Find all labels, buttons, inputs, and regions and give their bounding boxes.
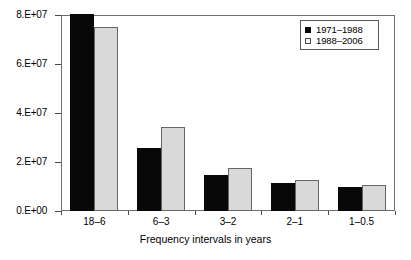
bar-10.5-series1	[338, 187, 362, 211]
legend-swatch-icon	[305, 27, 311, 33]
x-axis-tick-mark	[128, 211, 129, 215]
x-axis-tick-label: 2–1	[286, 216, 303, 227]
legend-entry: 1971–1988	[305, 24, 374, 35]
legend-entry: 1988–2006	[305, 35, 374, 46]
x-axis-title: Frequency intervals in years	[0, 233, 411, 245]
bar-63-series1	[137, 148, 161, 211]
bar-32-series1	[204, 175, 228, 211]
x-axis-tick-mark	[328, 211, 329, 215]
x-axis-tick-label: 6–3	[153, 216, 170, 227]
x-axis-tick-label: 3–2	[220, 216, 237, 227]
bar-32-series2	[228, 168, 252, 211]
x-axis-tick-mark	[61, 211, 62, 215]
bar-21-series1	[271, 183, 295, 211]
bar-63-series2	[161, 127, 185, 211]
bar-21-series2	[295, 180, 319, 211]
legend-swatch-icon	[305, 38, 311, 44]
bar-chart-figure: 8.E+076.E+074.E+072.E+070.E+00 18–66–33–…	[0, 0, 411, 260]
chart-legend: 1971–19881988–2006	[300, 20, 379, 50]
legend-label: 1971–1988	[316, 25, 363, 35]
bar-10.5-series2	[362, 185, 386, 211]
bar-186-series1	[70, 14, 94, 211]
bar-186-series2	[94, 27, 118, 211]
legend-label: 1988–2006	[316, 36, 363, 46]
x-axis-tick-label: 1–0.5	[349, 216, 374, 227]
x-axis-tick-mark	[195, 211, 196, 215]
x-axis-tick-mark	[261, 211, 262, 215]
x-axis-tick-mark	[395, 211, 396, 215]
x-axis-tick-label: 18–6	[83, 216, 105, 227]
